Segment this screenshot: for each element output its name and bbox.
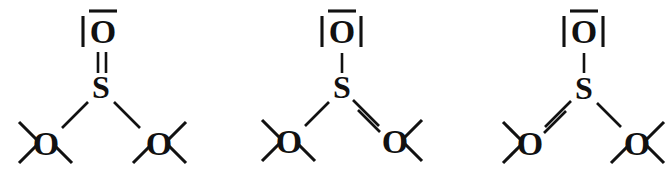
- resonance-structure-2: O S O: [224, 0, 448, 179]
- bond-line-a: [545, 101, 571, 127]
- top-oxygen-group: O: [564, 11, 603, 50]
- sulfur-label: S: [575, 70, 593, 106]
- bond-line-a: [597, 103, 621, 127]
- oxygen-label-bottom-right: O: [146, 125, 172, 162]
- oxygen-label-bottom-left: O: [517, 125, 543, 162]
- bottom-left-oxygen-group: O: [19, 122, 72, 163]
- bond-line-b: [358, 110, 380, 132]
- resonance-structure-3: O S O: [447, 0, 671, 179]
- oxygen-label-bottom-right: O: [624, 125, 650, 162]
- bottom-left-oxygen-group: O: [503, 122, 543, 163]
- bond-bottom-left-double: [544, 101, 571, 133]
- bottom-right-oxygen-group: O: [611, 122, 664, 163]
- top-oxygen-group: O: [83, 11, 117, 50]
- oxygen-label-top: O: [90, 13, 116, 50]
- bond-line-a: [62, 102, 88, 128]
- bond-bottom-right-double: [353, 100, 380, 132]
- bottom-right-oxygen-group: O: [133, 122, 186, 163]
- oxygen-label-top: O: [329, 13, 355, 50]
- top-oxygen-group: O: [322, 11, 361, 50]
- resonance-structures-diagram: O S O: [0, 0, 671, 179]
- sulfur-label: S: [333, 69, 351, 105]
- bond-bottom-right-single: [114, 102, 140, 128]
- bond-line-a: [114, 102, 140, 128]
- bond-line-a: [353, 100, 379, 126]
- bond-bottom-left-single: [62, 102, 88, 128]
- resonance-structure-1: O S O: [0, 0, 224, 179]
- bond-line-b: [544, 111, 566, 133]
- bottom-left-oxygen-group: O: [262, 120, 315, 161]
- bond-bottom-left-single: [305, 102, 329, 126]
- oxygen-label-bottom-right: O: [382, 123, 408, 160]
- bottom-right-oxygen-group: O: [382, 120, 422, 161]
- oxygen-label-top: O: [571, 13, 597, 50]
- sulfur-label: S: [92, 69, 110, 105]
- bond-bottom-right-single: [597, 103, 621, 127]
- bond-line-a: [305, 102, 329, 126]
- oxygen-label-bottom-left: O: [33, 125, 59, 162]
- oxygen-label-bottom-left: O: [276, 123, 302, 160]
